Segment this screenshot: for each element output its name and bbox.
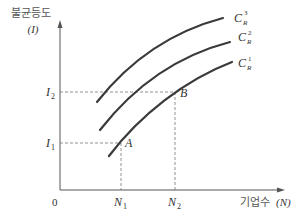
- x-tick-n2: N 2: [167, 195, 181, 211]
- x-axis-arrow-icon: [277, 188, 285, 193]
- curve-cr2: [100, 42, 230, 130]
- y-axis-label: 불균등도: [11, 7, 51, 20]
- x-axis-label: 기업수: [240, 196, 270, 209]
- x-axis-symbol: (N): [276, 196, 291, 209]
- svg-text:R: R: [246, 64, 252, 72]
- svg-text:2: 2: [51, 92, 55, 101]
- y-tick-i1: I 1: [45, 136, 55, 152]
- svg-text:R: R: [242, 19, 248, 27]
- curve-label-cr3: C R 3: [234, 9, 248, 27]
- y-tick-i2: I 2: [45, 85, 55, 101]
- svg-text:R: R: [246, 38, 252, 46]
- curve-label-cr1: C R 1: [238, 55, 252, 72]
- y-axis-arrow-icon: [58, 20, 63, 28]
- point-b-label: B: [180, 86, 188, 100]
- svg-text:N: N: [113, 195, 123, 209]
- x-tick-n1: N 1: [113, 195, 127, 211]
- origin-label: 0: [52, 196, 58, 208]
- curve-cr3: [97, 18, 223, 102]
- svg-text:2: 2: [177, 202, 181, 211]
- concentration-diagram: 불균등도 (I) 기업수 (N) 0 I 2 I 1 N 1 N 2 A B C…: [0, 0, 297, 217]
- svg-text:3: 3: [244, 9, 248, 17]
- svg-text:1: 1: [51, 143, 55, 152]
- svg-text:N: N: [167, 195, 177, 209]
- svg-text:2: 2: [248, 29, 252, 37]
- svg-text:C: C: [238, 30, 247, 44]
- y-axis-symbol: (I): [28, 23, 39, 36]
- svg-text:1: 1: [248, 55, 252, 63]
- curve-label-cr2: C R 2: [238, 29, 252, 46]
- svg-text:C: C: [234, 11, 243, 25]
- svg-text:C: C: [238, 56, 247, 70]
- svg-text:1: 1: [123, 202, 127, 211]
- point-a-label: A: [124, 136, 133, 150]
